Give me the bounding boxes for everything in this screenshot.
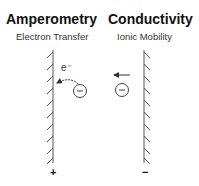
electron-label: e⁻ (61, 62, 72, 73)
anion-icon (74, 85, 87, 98)
diagram-canvas (0, 0, 199, 186)
electron-transfer-arrow (57, 80, 78, 84)
anion-icon (116, 84, 129, 97)
anode-polarity: + (50, 166, 56, 178)
anode-electrode (47, 50, 53, 164)
cathode-polarity: − (142, 166, 148, 178)
cathode-electrode (144, 50, 150, 164)
